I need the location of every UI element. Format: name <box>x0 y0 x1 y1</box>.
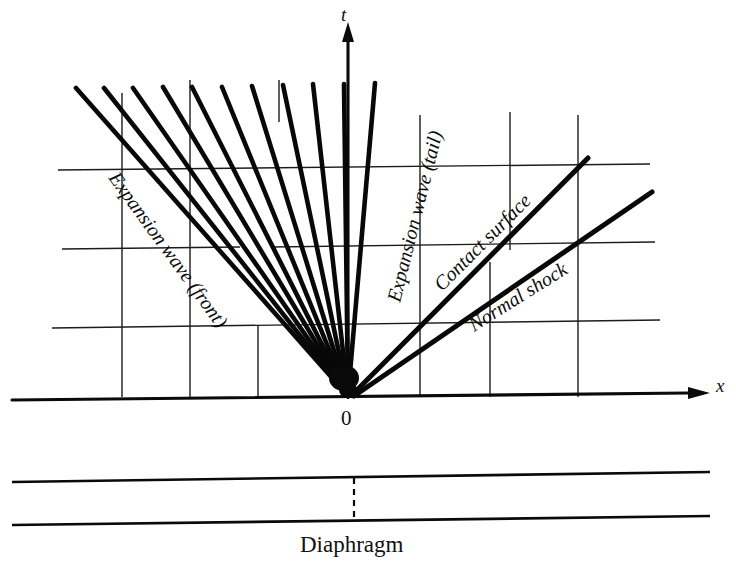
x-axis-label: x <box>715 375 725 396</box>
figure-canvas: t x 0 Expansion wave (front) Expansion w… <box>0 0 736 568</box>
t-axis-arrow-icon <box>342 22 354 42</box>
expansion-fan-ray <box>76 88 348 396</box>
grid-horizontal-line <box>62 247 240 249</box>
shock-tube-wave-figure: t x 0 Expansion wave (front) Expansion w… <box>0 0 736 568</box>
axes <box>12 22 710 400</box>
shock-tube-schematic <box>12 472 710 525</box>
grid-lines <box>52 80 660 397</box>
tube-top-wall <box>12 472 710 482</box>
x-axis-arrow-icon <box>688 387 710 399</box>
expansion-fan-ray <box>192 87 348 396</box>
diaphragm-label: Diaphragm <box>300 532 404 557</box>
tube-bottom-wall <box>12 516 710 525</box>
t-axis-label: t <box>341 4 347 25</box>
expansion-fan-ray <box>252 86 348 396</box>
expansion-fan-ray <box>104 88 348 396</box>
expansion-fan-ray-tail <box>348 83 375 396</box>
origin-label: 0 <box>341 406 352 430</box>
expansion-fan <box>76 83 375 398</box>
